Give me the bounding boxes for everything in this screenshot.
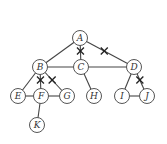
node-a: A [73,31,88,46]
node-label: K [33,120,42,130]
node-c: C [74,60,89,75]
graph-edges [18,38,147,125]
node-label: H [89,91,98,101]
node-label: F [37,91,45,101]
node-f: F [34,89,49,104]
node-label: B [36,62,44,72]
node-label: E [14,91,22,101]
node-g: G [60,89,75,104]
node-h: H [87,89,102,104]
cut-mark-icon [101,48,108,55]
graph-nodes: ABCDEFGHIJK [11,31,155,133]
node-i: I [115,89,130,104]
node-j: J [140,89,155,104]
node-label: A [76,33,84,43]
cut-mark-icon [136,77,143,84]
node-e: E [11,89,26,104]
node-d: D [127,60,142,75]
node-b: B [33,60,48,75]
cut-mark-icon [49,77,56,84]
edge-a-d [80,38,134,67]
node-k: K [30,118,45,133]
node-label: C [78,62,85,72]
node-label: I [119,91,124,101]
graph-diagram: ABCDEFGHIJK [0,0,167,144]
node-label: G [63,91,70,101]
node-label: D [129,62,137,72]
